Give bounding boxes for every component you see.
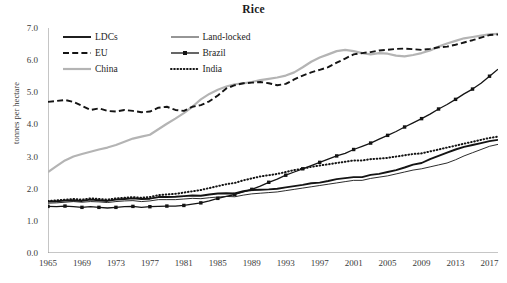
x-tick-label: 1989 bbox=[243, 258, 261, 268]
rice-yield-line-chart: Rice tonnes per hectare 0.01.02.03.04.05… bbox=[0, 0, 507, 283]
y-tick-label: 7.0 bbox=[4, 23, 38, 33]
x-tick-label: 1985 bbox=[209, 258, 227, 268]
legend-item-india[interactable]: India bbox=[170, 64, 278, 74]
x-tick-label: 2001 bbox=[345, 258, 363, 268]
x-tick-label: 2017 bbox=[481, 258, 499, 268]
y-tick-label: 2.0 bbox=[4, 184, 38, 194]
y-tick-label: 6.0 bbox=[4, 55, 38, 65]
legend-label: Land-locked bbox=[203, 32, 251, 42]
legend-item-ldcs[interactable]: LDCs bbox=[62, 32, 170, 42]
y-tick-label: 0.0 bbox=[4, 248, 38, 258]
legend-swatch-solid-gray bbox=[62, 64, 92, 74]
series-india bbox=[48, 137, 498, 201]
legend-label: EU bbox=[95, 48, 108, 58]
legend-swatch-dotted bbox=[170, 64, 200, 74]
series-brazil bbox=[48, 69, 498, 209]
x-tick-label: 2009 bbox=[413, 258, 431, 268]
legend-label: Brazil bbox=[203, 48, 226, 58]
x-tick-label: 2005 bbox=[379, 258, 397, 268]
legend-item-land-locked[interactable]: Land-locked bbox=[170, 32, 278, 42]
x-tick-label: 1997 bbox=[311, 258, 329, 268]
legend-swatch-solid-thin bbox=[170, 32, 200, 42]
chart-title: Rice bbox=[0, 3, 507, 15]
legend-label: India bbox=[203, 64, 223, 74]
x-axis-tick-labels: 1965196919731977198119851989199319972001… bbox=[0, 258, 507, 278]
x-tick-label: 1965 bbox=[39, 258, 57, 268]
legend-swatch-dashed bbox=[62, 48, 92, 58]
x-tick-label: 1977 bbox=[141, 258, 159, 268]
legend-item-eu[interactable]: EU bbox=[62, 48, 170, 58]
legend-item-brazil[interactable]: Brazil bbox=[170, 48, 278, 58]
legend-item-china[interactable]: China bbox=[62, 64, 170, 74]
y-tick-label: 1.0 bbox=[4, 216, 38, 226]
legend-label: China bbox=[95, 64, 118, 74]
chart-legend: LDCsLand-lockedEUBrazilChinaIndia bbox=[62, 29, 277, 77]
y-axis-tick-labels: 0.01.02.03.04.05.06.07.0 bbox=[4, 0, 38, 283]
y-tick-label: 3.0 bbox=[4, 152, 38, 162]
legend-swatch-marker-square bbox=[170, 48, 200, 58]
x-tick-label: 1973 bbox=[107, 258, 125, 268]
legend-swatch-solid-thick bbox=[62, 32, 92, 42]
legend-label: LDCs bbox=[95, 32, 118, 42]
x-tick-label: 1993 bbox=[277, 258, 295, 268]
x-tick-label: 1969 bbox=[73, 258, 91, 268]
x-tick-label: 2013 bbox=[447, 258, 465, 268]
x-tick-label: 1981 bbox=[175, 258, 193, 268]
y-tick-label: 5.0 bbox=[4, 87, 38, 97]
y-tick-label: 4.0 bbox=[4, 119, 38, 129]
